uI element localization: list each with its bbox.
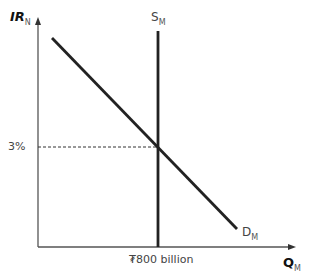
rate-tick-label: 3% (8, 141, 25, 152)
supply-label: SM (151, 11, 166, 23)
y-axis-label: IRN (10, 10, 31, 23)
quantity-tick-label: ₮800 billion (129, 254, 193, 265)
chart-canvas (0, 0, 312, 278)
demand-label: DM (242, 226, 258, 238)
y-axis-arrow-icon (35, 17, 41, 25)
demand-curve (52, 38, 237, 229)
x-axis-arrow-icon (288, 244, 296, 250)
x-axis-label: QM (283, 256, 301, 269)
